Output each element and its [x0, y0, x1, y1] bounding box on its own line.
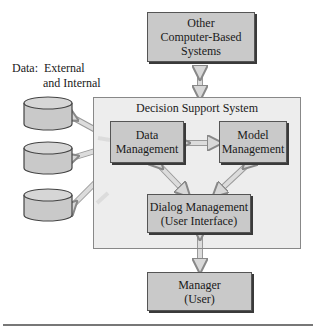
node-text: Other	[187, 16, 214, 30]
data-label-line1: Data: External	[12, 61, 101, 76]
node-data-management: Data Management	[110, 121, 184, 163]
data-sources-label: Data: External and Internal	[12, 61, 101, 91]
node-text: Computer-Based	[160, 30, 241, 44]
node-other-systems: Other Computer-Based Systems	[147, 12, 255, 62]
node-text: Model	[237, 128, 268, 142]
node-dialog-management: Dialog Management (User Interface)	[147, 194, 251, 233]
node-text: Management	[116, 142, 179, 156]
node-text: Dialog Management	[150, 200, 248, 214]
node-model-management: Model Management	[219, 121, 287, 163]
data-label-line2: and Internal	[12, 76, 101, 91]
node-text: (User Interface)	[161, 214, 237, 228]
node-text: Management	[222, 142, 285, 156]
node-manager: Manager (User)	[147, 272, 252, 311]
node-text: (User)	[184, 292, 215, 306]
node-text: Systems	[181, 44, 221, 58]
node-text: Data	[136, 128, 159, 142]
node-text: Manager	[178, 278, 221, 292]
